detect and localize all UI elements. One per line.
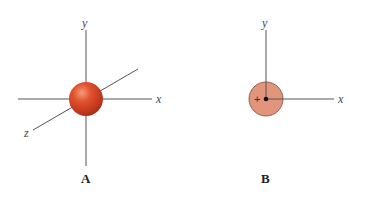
y-label-a: y	[81, 16, 88, 30]
y-label-b: y	[261, 16, 268, 30]
panel-a: y x z A	[18, 16, 162, 186]
x-label-b: x	[337, 92, 344, 106]
caption-a: A	[81, 171, 91, 186]
phase-sign: +	[254, 93, 260, 105]
s-orbital-sphere	[69, 82, 103, 116]
x-label-a: x	[155, 92, 162, 106]
nucleus-dot	[264, 97, 269, 102]
panel-b: + y x B	[249, 16, 344, 186]
z-label-a: z	[23, 126, 29, 140]
orbital-diagram: y x z A + y x B	[0, 0, 367, 197]
caption-b: B	[261, 171, 270, 186]
